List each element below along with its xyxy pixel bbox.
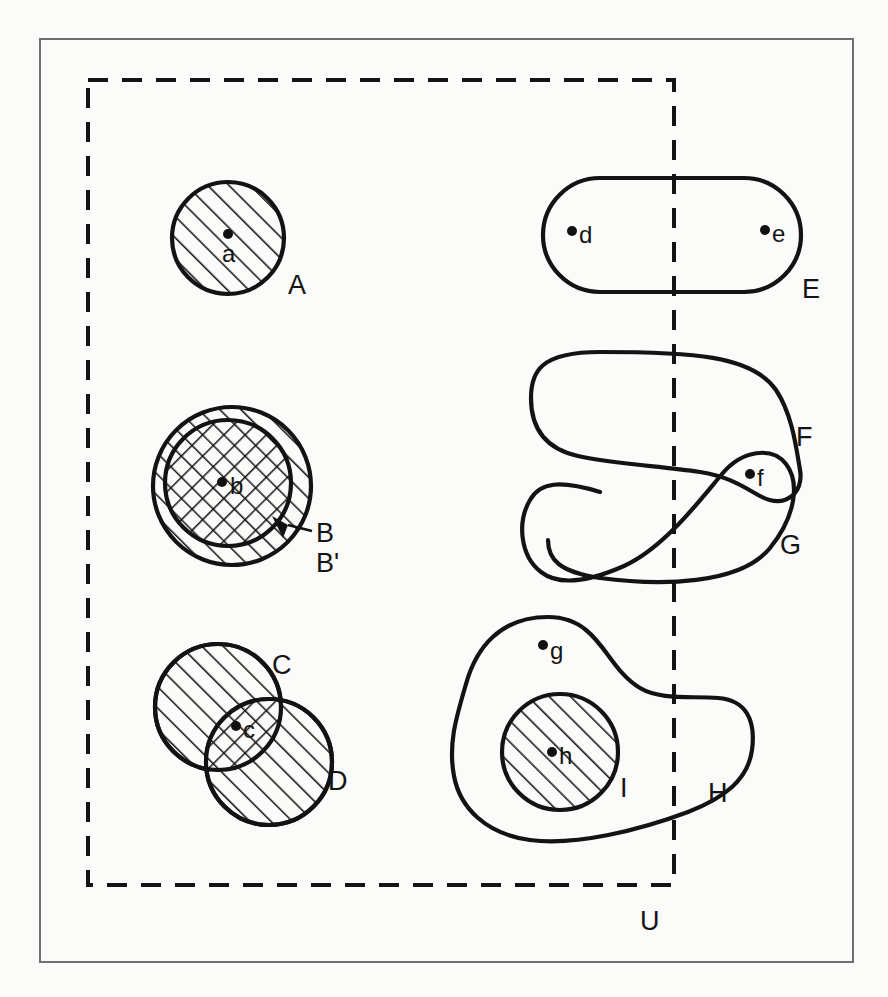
set-H-label: H — [708, 778, 728, 808]
point-e-dot — [760, 225, 770, 235]
point-g-dot — [538, 640, 548, 650]
set-C-D-group: c C D — [155, 644, 348, 825]
set-B-prime-label: B' — [316, 548, 339, 578]
point-g-label: g — [550, 637, 563, 664]
point-f-label: f — [757, 464, 764, 491]
point-a-label: a — [222, 240, 236, 267]
venn-diagram-canvas: U a A b B B' — [0, 0, 888, 997]
set-A-label: A — [288, 270, 306, 300]
set-diagram-figure: U a A b B B' — [0, 0, 888, 997]
set-B-shape — [165, 420, 291, 546]
set-E-label: E — [802, 274, 820, 304]
point-d-label: d — [579, 221, 592, 248]
universe-label: U — [640, 906, 660, 936]
point-b-label: b — [230, 472, 243, 499]
set-G-label: G — [780, 530, 801, 560]
set-F-G-group: f F G — [522, 352, 812, 582]
set-A-group: a A — [172, 182, 306, 300]
set-I-label: I — [620, 773, 628, 803]
point-a-dot — [223, 229, 233, 239]
point-b-dot — [217, 477, 227, 487]
point-f-dot — [745, 469, 755, 479]
point-c-dot — [231, 721, 241, 731]
set-B-group: b B B' — [153, 407, 339, 578]
set-C-label: C — [272, 650, 292, 680]
point-d-dot — [567, 226, 577, 236]
set-H-group: g h I H — [452, 617, 753, 841]
point-c-label: c — [243, 716, 255, 743]
point-e-label: e — [772, 220, 785, 247]
set-B-label: B — [316, 518, 334, 548]
point-h-dot — [547, 747, 557, 757]
set-E-group: d e E — [543, 178, 820, 304]
point-h-label: h — [559, 742, 572, 769]
set-F-label: F — [796, 422, 813, 452]
set-D-label: D — [328, 766, 348, 796]
